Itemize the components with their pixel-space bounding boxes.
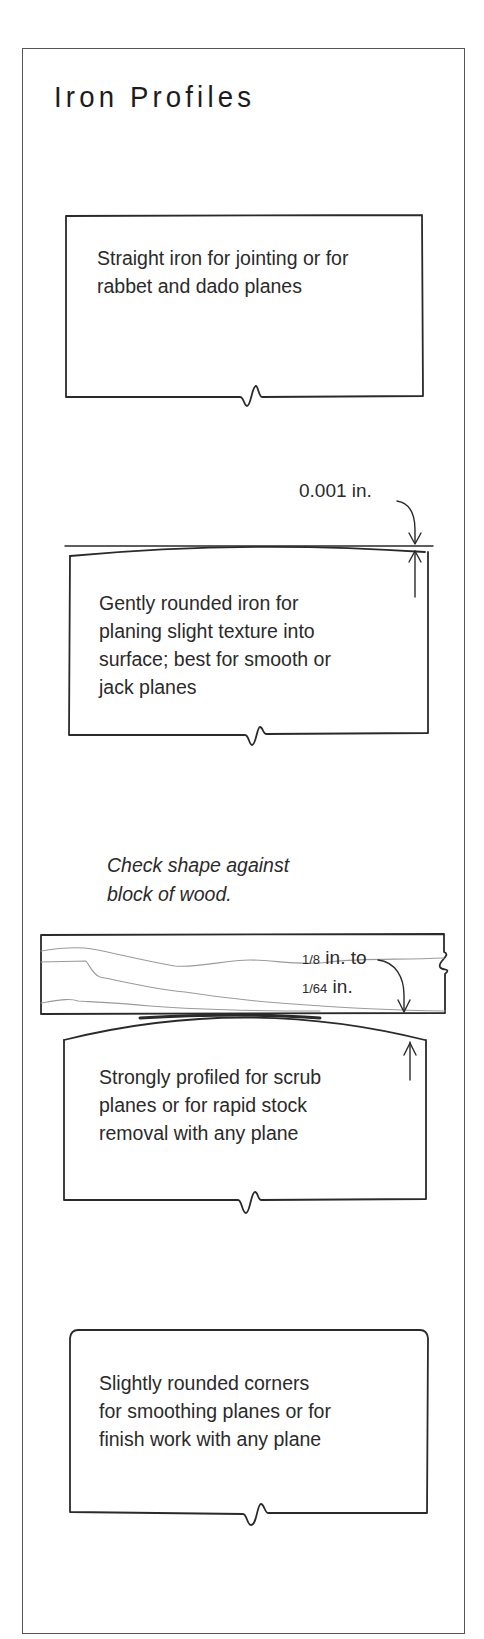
- caption-line: Gently rounded iron for: [99, 589, 331, 617]
- caption-line: planing slight texture into: [99, 617, 331, 645]
- check-shape-note: Check shape against block of wood.: [107, 851, 289, 909]
- rounded-corners-iron-caption: Slightly rounded corners for smoothing p…: [99, 1369, 331, 1453]
- strongly-profiled-iron-caption: Strongly profiled for scrub planes or fo…: [99, 1063, 321, 1147]
- caption-line: Straight iron for jointing or for: [97, 244, 348, 272]
- dimension-text: in.: [327, 976, 352, 997]
- caption-line: Strongly profiled for scrub: [99, 1063, 321, 1091]
- fraction: 1/8: [302, 952, 320, 967]
- caption-line: removal with any plane: [99, 1119, 321, 1147]
- caption-line: planes or for rapid stock: [99, 1091, 321, 1119]
- caption-line: surface; best for smooth or: [99, 645, 331, 673]
- gently-rounded-dimension-label: 0.001 in.: [299, 480, 372, 502]
- dimension-text: in. to: [320, 947, 366, 968]
- caption-line: Slightly rounded corners: [99, 1369, 331, 1397]
- wood-grain: [41, 948, 445, 1011]
- strongly-profiled-dimension-label: 1/8 in. to 1/64 in.: [302, 944, 367, 1002]
- caption-line: rabbet and dado planes: [97, 272, 348, 300]
- caption-line: jack planes: [99, 673, 331, 701]
- note-line: Check shape against: [107, 851, 289, 880]
- fraction: 1/64: [302, 981, 327, 996]
- caption-line: for smoothing planes or for: [99, 1397, 331, 1425]
- straight-iron-caption: Straight iron for jointing or for rabbet…: [97, 244, 348, 300]
- gently-rounded-iron-caption: Gently rounded iron for planing slight t…: [99, 589, 331, 701]
- caption-line: finish work with any plane: [99, 1425, 331, 1453]
- note-line: block of wood.: [107, 880, 289, 909]
